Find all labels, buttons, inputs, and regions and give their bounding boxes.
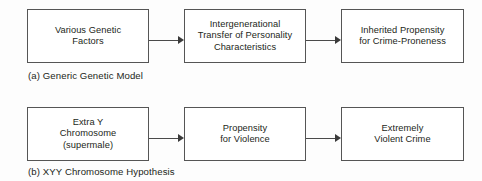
box-propensity-for-violence: Propensityfor Violence [184,107,306,161]
arrow-shaft [149,40,179,41]
arrow-shaft [149,138,179,139]
arrow-factors-to-transfer [149,36,184,45]
flowchart-diagram: Various GeneticFactors Intergenerational… [0,0,482,181]
arrow-violence-to-crime [306,134,341,143]
box-extremely-violent-crime: ExtremelyViolent Crime [341,107,464,161]
box-extra-y-chromosome: Extra YChromosome(supermale) [27,107,149,161]
caption-generic-genetic-model: (a) Generic Genetic Model [28,70,143,81]
box-label: Propensityfor Violence [188,123,302,146]
box-label: Extra YChromosome(supermale) [31,117,145,151]
box-inherited-propensity: Inherited Propensityfor Crime-Proneness [341,9,464,63]
box-various-genetic-factors: Various GeneticFactors [27,9,149,63]
box-label: IntergenerationalTransfer of Personality… [188,19,302,53]
box-label: Inherited Propensityfor Crime-Proneness [345,25,460,48]
arrow-shaft [306,40,336,41]
flow-row-generic-genetic-model: Various GeneticFactors Intergenerational… [0,9,482,65]
box-intergenerational-transfer: IntergenerationalTransfer of Personality… [184,9,306,63]
caption-xyy-chromosome-hypothesis: (b) XYY Chromosome Hypothesis [28,166,175,177]
arrow-chromosome-to-violence [149,134,184,143]
box-label: Various GeneticFactors [31,25,145,48]
box-label: ExtremelyViolent Crime [345,123,460,146]
flow-row-xyy-chromosome-hypothesis: Extra YChromosome(supermale) Propensityf… [0,107,482,163]
arrow-transfer-to-propensity [306,36,341,45]
arrow-shaft [306,138,336,139]
